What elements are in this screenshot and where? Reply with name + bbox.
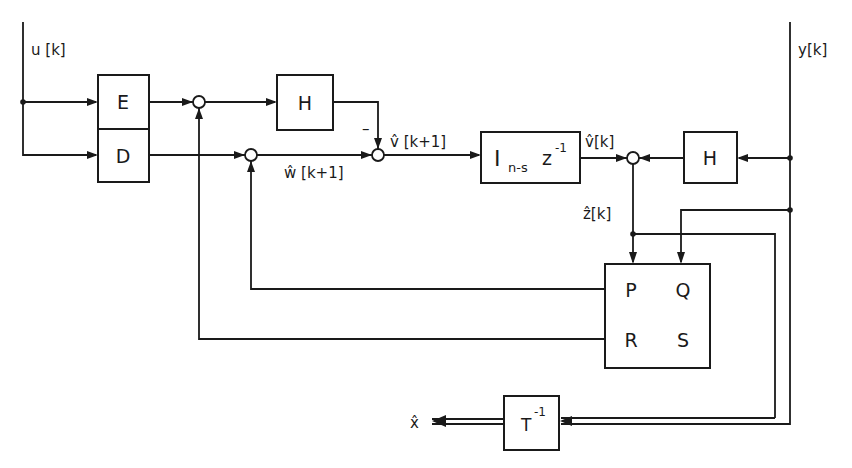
sum-junction-4: [627, 152, 639, 164]
arrow-into-sum4-right: [639, 154, 650, 162]
block-H-top: H: [277, 75, 333, 130]
block-delay-z: z: [542, 147, 552, 169]
junction-y-H: [787, 155, 793, 161]
arrow-into-sum1: [182, 98, 193, 106]
block-D-label: D: [116, 145, 131, 167]
arrow-into-sum1-bottom: [195, 108, 203, 119]
sum-junction-3: [372, 149, 384, 161]
junction-u: [20, 99, 26, 105]
block-PQRS: P Q R S: [605, 264, 710, 368]
block-T-label: T: [520, 415, 532, 435]
block-H-right: H: [684, 132, 737, 183]
label-y-k: y[k]: [798, 41, 827, 59]
block-P-label: P: [625, 279, 636, 301]
wire-H-to-sum3: [333, 102, 378, 149]
block-H-top-label: H: [298, 92, 312, 114]
block-E: E: [98, 75, 149, 129]
arrow-into-Q: [677, 252, 685, 264]
block-delay-superscript: -1: [555, 141, 567, 155]
label-w-hat: ŵ [k+1]: [284, 164, 344, 182]
arrow-into-E: [87, 98, 98, 106]
wire-y-to-Q: [681, 210, 790, 262]
arrow-into-sum3: [361, 151, 372, 159]
block-Q-label: Q: [676, 279, 691, 301]
block-E-label: E: [117, 91, 129, 113]
arrow-into-sum3-top: [374, 138, 382, 149]
sum-junction-2: [245, 149, 257, 161]
block-diagram: E D H I n-s z -1 H P Q R S T -1 u [k] y[…: [0, 0, 852, 468]
arrow-into-sum4-left: [616, 154, 627, 162]
arrow-into-sum2-bottom: [247, 161, 255, 172]
junction-z: [630, 231, 636, 237]
junction-y-Q: [787, 207, 793, 213]
block-T-superscript: -1: [534, 405, 546, 419]
block-delay-subscript: n-s: [508, 160, 528, 175]
arrow-into-D: [87, 151, 98, 159]
label-minus-sign: –: [362, 120, 370, 138]
block-T-inverse: T -1: [504, 396, 559, 450]
label-v-hat: v̂[k]: [585, 133, 614, 151]
arrow-into-delay: [470, 151, 481, 159]
label-x-hat: x̂: [410, 414, 419, 432]
sum-junction-1: [193, 96, 205, 108]
arrow-into-sum2: [234, 151, 245, 159]
arrow-into-H: [266, 98, 277, 106]
block-S-label: S: [677, 329, 689, 351]
block-D: D: [98, 129, 149, 182]
arrow-xhat-out: [432, 415, 446, 427]
block-delay: I n-s z -1: [481, 132, 580, 183]
label-u-k: u [k]: [31, 41, 66, 59]
arrow-into-Hright: [737, 154, 748, 162]
arrow-into-P: [629, 252, 637, 264]
label-v-hat-next: v̂ [k+1]: [390, 133, 446, 151]
block-R-label: R: [624, 329, 637, 351]
block-delay-I: I: [494, 146, 501, 171]
block-H-right-label: H: [703, 147, 717, 169]
label-z-hat: ẑ[k]: [583, 205, 611, 223]
